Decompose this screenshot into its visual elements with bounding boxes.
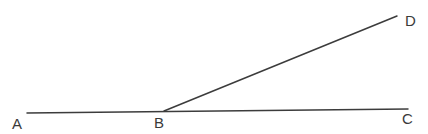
point-label-a: A [12, 115, 22, 132]
ray-bd [164, 16, 397, 111]
line-segment-abc [27, 109, 408, 113]
point-label-d: D [405, 12, 416, 29]
point-label-b: B [154, 114, 164, 131]
point-label-c: C [402, 110, 413, 127]
angle-diagram: A B C D [0, 0, 428, 134]
